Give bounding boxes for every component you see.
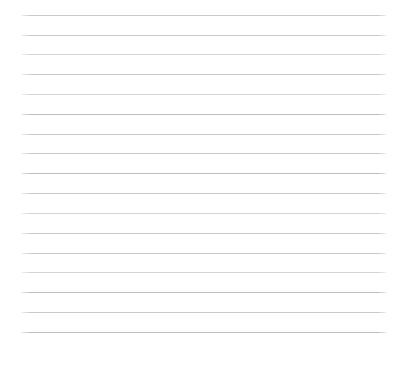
rule-line — [21, 94, 386, 95]
rule-line — [21, 114, 386, 115]
ruled-lines-layer — [0, 0, 407, 370]
rule-line — [21, 35, 386, 36]
rule-line — [21, 54, 386, 55]
bottom-blank-margin — [0, 333, 407, 370]
rule-line — [21, 173, 386, 174]
rule-line — [21, 15, 386, 16]
rule-line — [21, 253, 386, 254]
rule-line — [21, 213, 386, 214]
rule-line — [21, 233, 386, 234]
rule-line — [21, 193, 386, 194]
rule-line — [21, 74, 386, 75]
rule-line — [21, 272, 386, 273]
rule-line — [21, 312, 386, 313]
lined-paper-page — [0, 0, 407, 370]
rule-line — [21, 292, 386, 293]
rule-line — [21, 134, 386, 135]
rule-line — [21, 153, 386, 154]
